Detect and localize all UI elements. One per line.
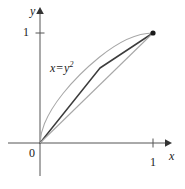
- y-axis-label: y: [30, 5, 35, 17]
- diagonal-line: [40, 33, 153, 143]
- endpoint-dot: [150, 30, 155, 35]
- equation-equals-sign: =: [55, 61, 64, 75]
- x-axis-label: x: [169, 150, 174, 162]
- x-axis-tick-label-1: 1: [150, 156, 156, 168]
- y-axis-arrowhead: [36, 7, 44, 14]
- y-axis-tick-label-1: 1: [23, 26, 29, 38]
- x-axis-arrowhead: [165, 139, 172, 147]
- curve-equation-label: x=y2: [50, 62, 73, 74]
- equation-exponent: 2: [69, 60, 73, 69]
- math-figure: y x 1 1 0 x=y2: [0, 0, 185, 189]
- origin-label: 0: [29, 147, 35, 159]
